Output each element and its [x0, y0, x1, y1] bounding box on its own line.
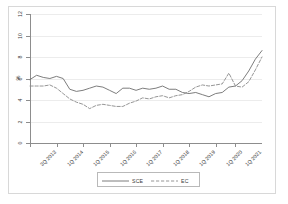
x-tick-mark — [57, 143, 58, 147]
y-tick-label: 0 — [17, 137, 23, 149]
y-tick-label: 2 — [17, 116, 23, 128]
legend-label: EC — [181, 178, 189, 184]
legend-label: SCE — [132, 178, 143, 184]
legend-entry-ec: EC — [151, 173, 189, 188]
legend-swatch-sce — [102, 178, 129, 184]
y-tick-label: 4 — [17, 94, 23, 106]
chart-figure: 024681012 3Q 20131Q 20141Q 20151Q 20161Q… — [0, 0, 288, 204]
series-line-sce — [30, 51, 262, 97]
legend-swatch-ec — [151, 178, 178, 184]
x-tick-mark — [216, 143, 217, 147]
series-lines — [30, 14, 262, 143]
legend-entry-sce: SCE — [102, 173, 143, 188]
y-tick-label: 10 — [17, 30, 23, 42]
x-tick-mark — [163, 143, 164, 147]
x-tick-mark — [110, 143, 111, 147]
y-tick-label: 8 — [17, 51, 23, 63]
x-tick-mark — [30, 143, 31, 147]
x-tick-mark — [235, 143, 236, 147]
x-tick-mark — [83, 143, 84, 147]
x-tick-mark — [189, 143, 190, 147]
y-tick-label: 12 — [17, 8, 23, 20]
series-line-ec — [30, 57, 262, 109]
chart-legend: SCEEC — [97, 172, 200, 187]
x-axis-line — [30, 143, 262, 144]
y-axis-title: % — [15, 71, 21, 85]
x-tick-mark — [136, 143, 137, 147]
